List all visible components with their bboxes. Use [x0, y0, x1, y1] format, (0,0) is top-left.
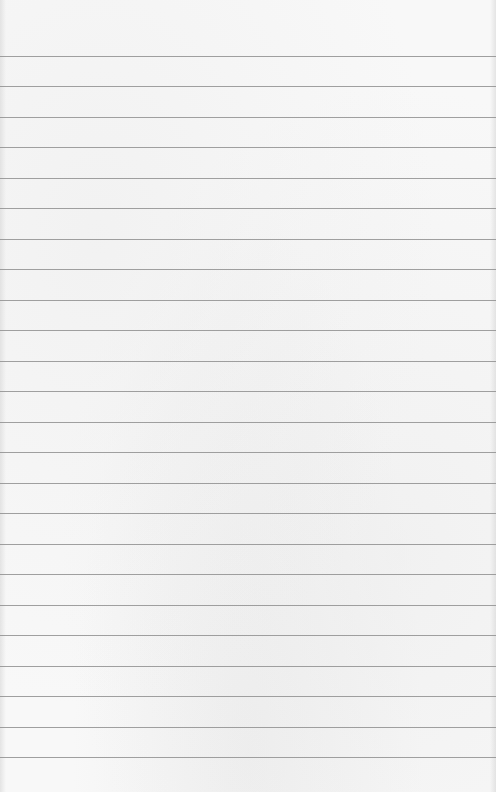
- ruled-line: [0, 239, 496, 240]
- ruled-line: [0, 513, 496, 514]
- ruled-line: [0, 635, 496, 636]
- ruled-line: [0, 727, 496, 728]
- ruled-line: [0, 483, 496, 484]
- paper-edge-shadow-left: [0, 0, 6, 792]
- ruled-line: [0, 300, 496, 301]
- ruled-line: [0, 56, 496, 57]
- ruled-line: [0, 117, 496, 118]
- ruled-line: [0, 757, 496, 758]
- ruled-line: [0, 330, 496, 331]
- ruled-line: [0, 422, 496, 423]
- ruled-line: [0, 544, 496, 545]
- ruled-line: [0, 178, 496, 179]
- ruled-line: [0, 269, 496, 270]
- ruled-line: [0, 696, 496, 697]
- ruled-line: [0, 452, 496, 453]
- ruled-line: [0, 666, 496, 667]
- lined-paper: [0, 0, 496, 792]
- ruled-line: [0, 361, 496, 362]
- ruled-line: [0, 86, 496, 87]
- ruled-line: [0, 391, 496, 392]
- ruled-line: [0, 574, 496, 575]
- paper-edge-shadow-right: [490, 0, 496, 792]
- ruled-line: [0, 147, 496, 148]
- ruled-line: [0, 208, 496, 209]
- ruled-line: [0, 605, 496, 606]
